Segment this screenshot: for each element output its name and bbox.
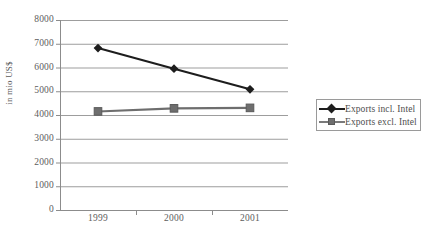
legend-item-label: Exports incl. Intel [345, 104, 415, 114]
line-chart: in mio US$ 80007000600050004000300020001… [0, 0, 431, 244]
square-marker-icon [319, 115, 345, 128]
y-axis-tick-label: 1000 [14, 182, 54, 192]
x-axis-tick-label: 2001 [220, 213, 280, 223]
data-point-marker [170, 64, 179, 73]
y-axis-tick-label: 3000 [14, 134, 54, 144]
y-axis-tick-label: 0 [14, 205, 54, 215]
x-axis-tick-labels: 199920002001 [60, 213, 288, 237]
y-axis-tick-label: 7000 [14, 39, 54, 49]
y-axis-tick-label: 8000 [14, 15, 54, 25]
legend-key-marker [328, 118, 335, 125]
data-point-marker [246, 104, 254, 112]
legend-item: Exports excl. Intel [319, 115, 417, 128]
legend-key-marker [327, 103, 337, 113]
data-point-marker [94, 108, 102, 116]
legend-item: Exports incl. Intel [319, 102, 417, 115]
chart-legend: Exports incl. IntelExports excl. Intel [316, 99, 421, 131]
data-point-marker [94, 44, 103, 53]
y-axis-tick-label: 2000 [14, 158, 54, 168]
x-axis-tick-label: 2000 [144, 213, 204, 223]
y-axis-tick-label: 5000 [14, 87, 54, 97]
y-axis-title: in mio US$ [4, 48, 14, 118]
y-axis-tick-label: 4000 [14, 110, 54, 120]
legend-item-label: Exports excl. Intel [345, 117, 417, 127]
x-axis-tick-label: 1999 [68, 213, 128, 223]
data-point-marker [170, 105, 178, 113]
data-point-marker [246, 85, 255, 94]
y-axis-tick-label: 6000 [14, 63, 54, 73]
y-axis-tick-labels: 800070006000500040003000200010000 [14, 0, 54, 244]
diamond-marker-icon [319, 102, 345, 115]
